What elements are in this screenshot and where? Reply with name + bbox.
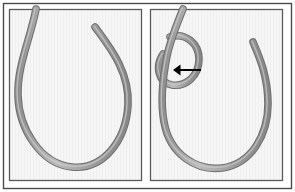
panel-right (150, 8, 283, 181)
rope-crossing-figure (0, 0, 295, 192)
figure-root: Rope crossing diagram Two side-by-side p… (0, 0, 295, 192)
panel-left (9, 8, 142, 181)
